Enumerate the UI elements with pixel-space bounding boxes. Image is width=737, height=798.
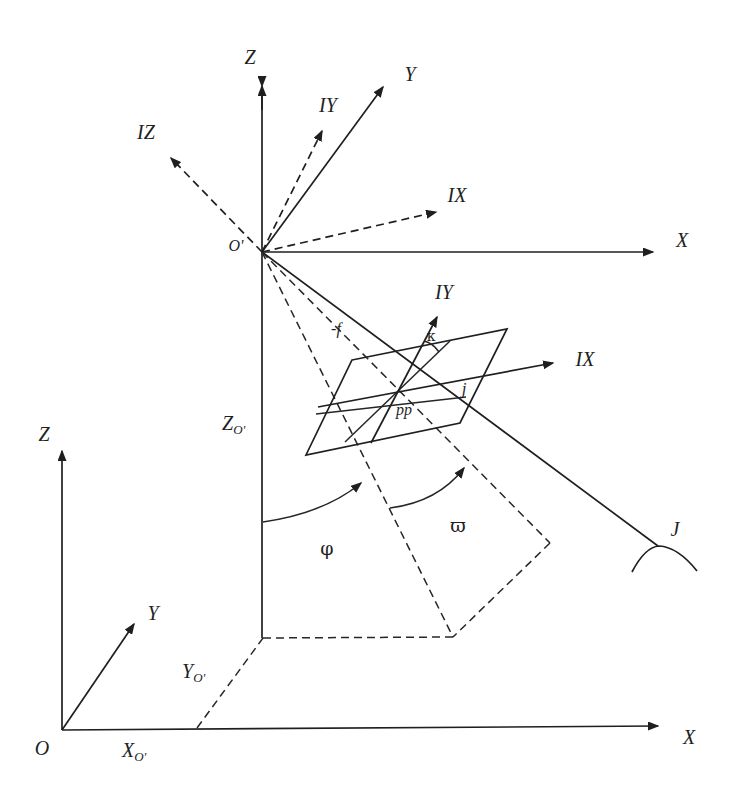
yo-coordinate-label: YO' <box>182 660 206 685</box>
principal-point-label: pp <box>395 401 412 419</box>
projection-rays: -f <box>262 252 658 638</box>
xo-sub: O' <box>134 749 146 764</box>
camera-coordinate-system: Z Y X IY IZ IX O' <box>136 46 689 638</box>
phi-angle-arc <box>263 483 361 522</box>
plane-iy-label: IY <box>434 281 455 303</box>
yo-sub: O' <box>193 670 205 685</box>
principal-ray-dashed <box>262 252 550 543</box>
focal-length-label: -f <box>331 320 343 338</box>
plane-ix-label: IX <box>575 348 596 370</box>
phi-angle-label: φ <box>320 537 333 559</box>
image-point-label: j <box>460 379 467 398</box>
iz-axis-label: IZ <box>136 121 156 143</box>
camera-origin-label: O' <box>229 237 245 254</box>
rotation-angles: φ ϖ <box>263 468 466 559</box>
upper-ix-axis-label: IX <box>447 184 468 206</box>
ground-y-axis <box>62 624 134 730</box>
terrain-curve <box>632 546 697 572</box>
omega-angle-arc <box>390 468 464 508</box>
zo-coordinate-label: ZO' <box>222 412 246 437</box>
imaging-ray-oj <box>262 252 658 546</box>
xo-coordinate-label: XO' <box>121 739 147 764</box>
upper-x-axis-label: X <box>675 229 689 251</box>
kappa-angle-label: κ <box>427 328 436 344</box>
xo-base: X <box>121 739 135 761</box>
ground-point: J <box>632 518 697 572</box>
omega-angle-label: ϖ <box>450 514 466 536</box>
upper-iy-axis-dashed <box>262 131 322 252</box>
ground-point-label: J <box>671 518 681 540</box>
iy-axis-label: IY <box>318 94 339 116</box>
ground-x-axis-label: X <box>682 726 696 748</box>
ground-origin-label: O <box>35 737 49 759</box>
upper-y-axis-label: Y <box>404 63 417 85</box>
upper-z-axis-label: Z <box>244 46 256 68</box>
zo-sub: O' <box>233 422 245 437</box>
ground-coordinate-system: Z Y X O XO' YO' ZO' <box>35 412 696 764</box>
photogrammetry-orientation-diagram: Z Y X IY IZ IX O' -f IY IX κ pp <box>0 0 737 798</box>
iz-axis-dashed <box>171 158 262 252</box>
footprint-right-edge-dashed <box>453 543 550 637</box>
image-plane-outline <box>306 329 507 455</box>
ground-trace-dashed <box>263 637 453 638</box>
ground-y-axis-label: Y <box>147 602 160 624</box>
diagram-canvas: Z Y X IY IZ IX O' -f IY IX κ pp <box>0 0 737 798</box>
ground-z-axis-label: Z <box>38 423 50 445</box>
yo-offset-line-dashed <box>197 638 263 728</box>
ground-x-axis <box>62 726 658 730</box>
upper-ix-axis-dashed <box>262 212 436 252</box>
